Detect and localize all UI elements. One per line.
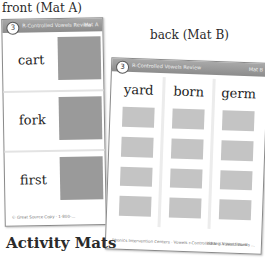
column-header: germ [221, 85, 256, 101]
picture-box [60, 156, 104, 200]
page-title: Activity Mats [6, 234, 116, 252]
sort-cell [221, 110, 254, 131]
mat-b-header-title: R-Controlled Vowels Review [132, 62, 201, 70]
word-row: first [5, 151, 106, 211]
sort-cell [169, 168, 202, 189]
sort-cell [119, 166, 152, 187]
sort-cell [168, 198, 201, 219]
sort-cell [219, 170, 252, 191]
picture-box [59, 96, 103, 140]
column-header: yard [124, 82, 154, 98]
word-row: cart [2, 31, 103, 93]
column-germ: germ [210, 79, 262, 231]
lesson-number-badge: 3 [116, 60, 129, 73]
sort-columns: yard born germ [107, 71, 265, 230]
sort-cell [220, 140, 253, 161]
mat-a-tag: Mat A [84, 21, 98, 27]
picture-box [58, 36, 102, 80]
sort-cell [218, 199, 251, 220]
word-row: fork [3, 91, 104, 153]
mat-b-tag: Mat B [249, 66, 264, 72]
column-born: born [161, 77, 216, 229]
front-mat-label: front (Mat A) [2, 1, 82, 15]
mat-a-front: 3 R-Controlled Vowels Review Mat A cart … [1, 17, 107, 227]
mat-a-header-title: R-Controlled Vowels Review [22, 21, 91, 28]
word-cart: cart [18, 52, 45, 67]
sort-cell [120, 136, 153, 157]
mat-b-back: 3 R-Controlled Vowels Review Mat B yard … [105, 57, 265, 254]
word-first: first [20, 172, 47, 187]
word-fork: fork [19, 112, 46, 127]
column-header: born [173, 84, 204, 100]
mat-b-footer-right: ISBN 1-X Word Work · ... [207, 241, 255, 248]
sort-cell [121, 107, 154, 128]
back-mat-label: back (Mat B) [150, 28, 229, 42]
sort-cell [118, 196, 151, 217]
sort-cell [171, 108, 204, 129]
column-yard: yard [111, 75, 166, 227]
mat-a-footer: © Great Source Copy · 1-800-... [12, 214, 76, 220]
sort-cell [170, 138, 203, 159]
